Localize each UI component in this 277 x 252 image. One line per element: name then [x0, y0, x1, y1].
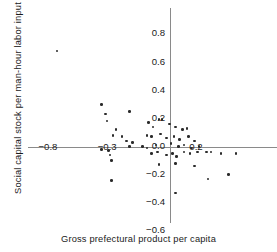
- scatter-point: [189, 152, 192, 155]
- scatter-point: [152, 126, 155, 129]
- y-tick-label-text: 0.4: [137, 84, 165, 95]
- scatter-point: [104, 113, 107, 116]
- scatter-point: [115, 128, 118, 131]
- scatter-point: [187, 135, 190, 138]
- scatter-point: [207, 178, 210, 181]
- scatter-point: [125, 140, 128, 143]
- scatter-point: [193, 165, 196, 168]
- x-axis-title: Gross prefectural product per capita: [0, 234, 277, 244]
- scatter-point: [235, 152, 238, 155]
- scatter-point: [174, 126, 177, 129]
- scatter-point: [100, 103, 103, 106]
- scatter-point: [159, 133, 162, 136]
- y-tick-label-text: −0.2: [137, 168, 165, 179]
- scatter-point: [146, 134, 149, 137]
- y-tick-label-text: −0.4: [137, 196, 165, 207]
- y-tick-label: −0.2: [137, 168, 165, 180]
- scatter-point: [171, 152, 174, 155]
- scatter-point: [131, 141, 134, 144]
- scatter-point: [158, 163, 161, 166]
- y-tick-label-text: 0.0: [137, 140, 165, 151]
- scatter-point: [174, 162, 177, 165]
- y-axis-title: Social capital stock per man-hour labor …: [13, 0, 39, 198]
- y-tick-label: 0.4: [137, 84, 165, 96]
- scatter-plot-figure: 0.80.60.40.20.0−0.2−0.4−0.6 −0.8−0.30.2 …: [0, 0, 277, 252]
- x-tick-label: −0.3: [90, 141, 124, 152]
- scatter-point: [112, 134, 115, 137]
- scatter-point: [165, 154, 168, 157]
- scatter-point: [175, 155, 178, 158]
- y-tick-label: 0.6: [137, 56, 165, 68]
- scatter-point: [227, 173, 230, 176]
- scatter-point: [173, 135, 176, 138]
- scatter-point: [150, 135, 153, 138]
- scatter-point: [128, 110, 131, 113]
- y-tick-label: 0.2: [137, 112, 165, 124]
- scatter-point: [56, 50, 59, 53]
- scatter-point: [220, 152, 223, 155]
- scatter-point: [110, 179, 113, 182]
- y-axis-line: [170, 8, 171, 223]
- scatter-point: [174, 192, 177, 195]
- y-tick-label-text: 0.8: [137, 27, 165, 38]
- scatter-point: [110, 159, 113, 162]
- scatter-point: [186, 127, 189, 130]
- scatter-point: [106, 120, 109, 123]
- y-tick-label-text: 0.6: [137, 56, 165, 67]
- y-tick-label: 0.8: [137, 27, 165, 39]
- y-tick-label: 0.0: [137, 140, 165, 152]
- y-tick-label-text: 0.2: [137, 112, 165, 123]
- scatter-point: [181, 128, 184, 131]
- scatter-point: [121, 135, 124, 138]
- scatter-point: [109, 154, 112, 157]
- scatter-point: [165, 137, 168, 140]
- y-tick-label: −0.4: [137, 196, 165, 208]
- x-tick-label: 0.2: [179, 141, 213, 152]
- scatter-point: [150, 152, 153, 155]
